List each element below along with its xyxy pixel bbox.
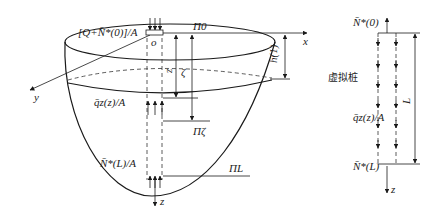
dim-h-label: h(1)	[267, 44, 280, 63]
z-axis-label: z	[159, 195, 165, 207]
virtual-pile-label: 虚拟桩	[328, 71, 358, 83]
dim-zeta-label: ζ	[181, 66, 187, 79]
virtual-pile-side-arrows	[378, 38, 396, 148]
right-side-load-label: q̄z(z)/A	[353, 111, 384, 124]
right-figure: N̄*(0) 虚拟桩 q̄z(z)/A L N̄*(L) z	[328, 16, 420, 195]
right-z-axis-label: z	[390, 183, 396, 195]
plane-L-label: ΠL	[228, 162, 243, 174]
origin-label: o	[151, 36, 157, 48]
bowl-outline	[65, 42, 275, 196]
y-axis	[30, 35, 150, 90]
plane-top-label: Π0	[192, 20, 207, 32]
top-force-label: N̄*(0)	[352, 16, 379, 29]
x-axis-label: x	[302, 35, 308, 47]
top-load-label: [Q+N̄*(0)]/A	[78, 26, 138, 39]
y-axis-label: y	[33, 91, 39, 103]
side-load-arrows	[148, 101, 162, 115]
side-load-label: q̄z(z)/A	[94, 96, 125, 109]
bottom-force-label: N̄*(L)	[352, 160, 380, 173]
left-figure: [Q+N̄*(0)]/A o Π0 x y z ζ h(1) q̄z(z)/A …	[30, 18, 308, 207]
plane-zeta-label: Πζ	[192, 125, 207, 138]
length-label: L	[400, 98, 412, 105]
plane-zeta-arc	[68, 80, 272, 93]
diagram-canvas: [Q+N̄*(0)]/A o Π0 x y z ζ h(1) q̄z(z)/A …	[0, 0, 443, 213]
bottom-load-label: N̄*(L)/A	[99, 157, 136, 170]
dim-z-label: z	[162, 68, 174, 74]
pile-head	[146, 30, 163, 35]
